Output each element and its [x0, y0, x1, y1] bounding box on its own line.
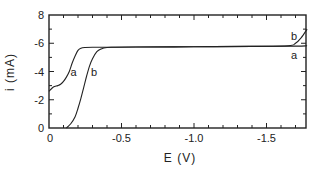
x-tick-label: 0 [47, 132, 53, 144]
line-chart: 0-0.5-1.0-1.5 0-2-4-68 abba E (V) i (mA) [0, 0, 315, 169]
curve-label-a: a [291, 49, 298, 61]
y-tick-label: -2 [34, 94, 44, 106]
x-tick-label: -1.5 [257, 132, 276, 144]
curve-label-a: a [71, 66, 78, 78]
curve-label-b: b [91, 66, 97, 78]
y-axis-label: i (mA) [3, 53, 17, 91]
x-tick-label: -1.0 [185, 132, 204, 144]
y-tick-label: -4 [34, 66, 44, 78]
curve-label-b: b [291, 30, 297, 42]
curve-b [66, 29, 307, 128]
curve-annotations: abba [71, 30, 298, 77]
x-tick-labels: 0-0.5-1.0-1.5 [47, 132, 276, 144]
y-tick-label: 8 [38, 9, 44, 21]
curve-a [49, 46, 307, 91]
x-tick-label: -0.5 [112, 132, 131, 144]
x-axis-label: E (V) [164, 151, 196, 165]
y-tick-label: 0 [38, 122, 44, 134]
y-tick-label: -6 [34, 37, 44, 49]
y-tick-labels: 0-2-4-68 [34, 9, 44, 134]
curves [49, 29, 307, 128]
